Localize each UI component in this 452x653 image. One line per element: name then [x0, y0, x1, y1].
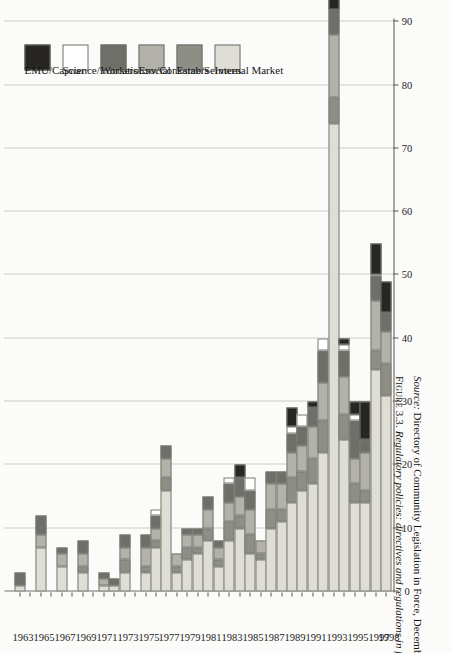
bar-row [119, 0, 130, 653]
bar-segment [108, 578, 119, 584]
bar-segment [338, 344, 349, 350]
bar-segment [286, 477, 297, 502]
bar-segment [359, 490, 370, 503]
bar-row [192, 0, 203, 653]
bar-segment [338, 439, 349, 591]
bar-row [255, 0, 266, 653]
category-axis-tick [333, 592, 334, 596]
bar-segment [171, 566, 182, 572]
bar-segment [119, 547, 130, 560]
bar-row [140, 0, 151, 653]
bar-segment [213, 566, 224, 591]
bar-segment [160, 477, 171, 490]
bar-segment [349, 414, 360, 420]
bar-segment [181, 528, 192, 534]
category-axis-tick [354, 592, 355, 596]
bar-segment [150, 515, 161, 528]
bar-row [77, 0, 88, 653]
bar-segment [265, 509, 276, 528]
category-axis-tick [385, 592, 386, 596]
bar-segment [265, 528, 276, 591]
bar-segment [108, 585, 119, 591]
bar-segment [359, 439, 370, 452]
bar-row [45, 0, 56, 653]
bar-segment [286, 433, 297, 452]
bar-segment [296, 426, 307, 445]
bar-row [181, 0, 192, 653]
figure-title: Regulatory policies: directives and regu… [394, 431, 406, 653]
bar-segment [370, 369, 381, 591]
category-axis-tick [301, 592, 302, 596]
bar-segment [286, 502, 297, 591]
bar-segment [317, 452, 328, 591]
category-axis-tick [322, 592, 323, 596]
bar-segment [349, 502, 360, 591]
category-axis-tick [239, 592, 240, 596]
bar-segment [77, 566, 88, 572]
bar-segment [349, 420, 360, 458]
bar-segment [276, 483, 287, 508]
bar-segment [140, 566, 151, 572]
category-axis-tick [113, 592, 114, 596]
bar-segment [359, 452, 370, 490]
category-axis-tick [145, 592, 146, 596]
chart-rotor: 0102030405060708090196319651967196919711… [0, 0, 452, 653]
bar-row [286, 0, 297, 653]
category-axis-tick [61, 592, 62, 596]
bar-row [276, 0, 287, 653]
bar-segment [349, 458, 360, 483]
bar-segment [234, 477, 245, 496]
bar-row [370, 0, 381, 653]
bar-segment [349, 483, 360, 502]
bar-segment [150, 540, 161, 546]
bar-segment [202, 528, 213, 541]
category-axis-tick [29, 592, 30, 596]
bar-segment [296, 445, 307, 470]
bar-segment [338, 350, 349, 375]
bar-segment [35, 534, 46, 547]
bar-segment [234, 496, 245, 515]
bar-segment [265, 471, 276, 484]
bar-row [14, 0, 25, 653]
bar-segment [160, 458, 171, 477]
bar-segment [370, 243, 381, 275]
bar-segment [317, 350, 328, 382]
category-axis-tick [375, 592, 376, 596]
bar-segment [171, 572, 182, 591]
bar-segment [380, 313, 391, 332]
bar-segment [370, 350, 381, 369]
figure-page: 0102030405060708090196319651967196919711… [0, 0, 452, 653]
bar-segment [181, 559, 192, 591]
bar-segment [160, 490, 171, 591]
bar-segment [276, 471, 287, 484]
bar-segment [307, 407, 318, 426]
bar-segment [255, 540, 266, 553]
bar-segment [202, 496, 213, 509]
category-axis-tick [197, 592, 198, 596]
bar-segment [223, 502, 234, 521]
bar-segment [255, 559, 266, 591]
bar-segment [223, 521, 234, 540]
bar-segment [370, 275, 381, 300]
source-text: Directory of Community Legislation in Fo… [412, 413, 424, 653]
bar-segment [56, 566, 67, 591]
bar-segment [98, 572, 109, 578]
bar-row [380, 0, 391, 653]
bar-segment [359, 401, 370, 439]
bar-row [317, 0, 328, 653]
bar-row [171, 0, 182, 653]
bar-segment [150, 547, 161, 591]
category-axis-tick [364, 592, 365, 596]
bar-segment [296, 490, 307, 591]
bar-segment [359, 502, 370, 591]
bar-row [35, 0, 46, 653]
bar-segment [77, 540, 88, 553]
bar-segment [380, 281, 391, 313]
bar-segment [380, 395, 391, 591]
chart-plot-area: 0102030405060708090196319651967196919711… [0, 0, 452, 653]
legend-label: Internal Market [214, 63, 283, 75]
bar-segment [140, 572, 151, 591]
bar-segment [370, 300, 381, 351]
bar-segment [14, 585, 25, 591]
bar-segment [223, 477, 234, 483]
